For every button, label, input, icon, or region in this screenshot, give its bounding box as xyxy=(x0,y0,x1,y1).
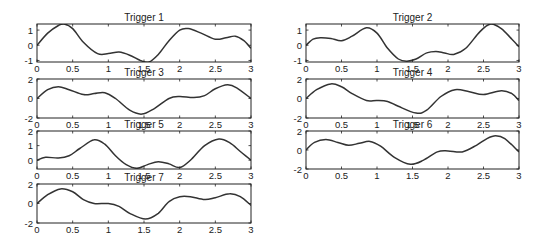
y-tick-label: 0 xyxy=(297,145,302,156)
x-tick-label: 2.5 xyxy=(477,170,490,181)
y-tick-label: 0 xyxy=(28,40,33,51)
x-tick-label: 0.5 xyxy=(66,224,79,235)
x-tick-label: 2.5 xyxy=(209,224,222,235)
y-tick-label: 1 xyxy=(297,25,302,36)
x-tick-label: 0 xyxy=(303,119,308,130)
x-tick-label: 1 xyxy=(106,224,111,235)
x-tick-label: 2.5 xyxy=(209,63,222,74)
subplot-title: Trigger 4 xyxy=(393,67,433,78)
x-tick-label: 2.5 xyxy=(477,119,490,130)
y-tick-label: 2 xyxy=(28,126,33,137)
subplot-title: Trigger 5 xyxy=(124,119,164,130)
y-tick-label: 0 xyxy=(28,93,33,104)
subplot-trigger-7: Trigger 700.511.522.53-202 xyxy=(25,172,254,235)
y-tick-label: 0 xyxy=(28,198,33,209)
x-tick-label: 0 xyxy=(303,63,308,74)
signal-line xyxy=(37,139,251,168)
signal-line xyxy=(306,136,519,165)
x-tick-label: 1.5 xyxy=(406,170,419,181)
x-tick-label: 3 xyxy=(248,63,253,74)
y-tick-label: 0 xyxy=(297,40,302,51)
axes-frame xyxy=(306,131,519,169)
x-tick-label: 3 xyxy=(248,170,253,181)
x-tick-label: 2 xyxy=(445,119,450,130)
x-tick-label: 2 xyxy=(177,170,182,181)
y-tick-label: -2 xyxy=(25,113,33,124)
x-tick-label: 1 xyxy=(106,63,111,74)
y-tick-label: -2 xyxy=(294,164,302,175)
x-tick-label: 2 xyxy=(177,224,182,235)
y-tick-label: -2 xyxy=(294,113,302,124)
figure: Trigger 100.511.522.53-101Trigger 200.51… xyxy=(0,0,535,243)
signal-line xyxy=(306,84,519,114)
x-tick-label: 0.5 xyxy=(66,119,79,130)
axes-frame xyxy=(306,24,519,62)
subplot-trigger-1: Trigger 100.511.522.53-101 xyxy=(25,12,254,74)
x-tick-label: 1 xyxy=(374,63,379,74)
y-tick-label: 2 xyxy=(297,126,302,137)
axes-frame xyxy=(37,79,251,118)
x-tick-label: 1 xyxy=(106,170,111,181)
x-tick-label: 0.5 xyxy=(335,119,348,130)
x-tick-label: 3 xyxy=(516,63,521,74)
subplot-title: Trigger 1 xyxy=(124,12,164,23)
y-tick-label: 2 xyxy=(28,74,33,85)
y-tick-label: 1 xyxy=(28,140,33,151)
x-tick-label: 0 xyxy=(34,170,39,181)
x-tick-label: 0.5 xyxy=(335,170,348,181)
signal-line xyxy=(37,189,251,219)
signal-line xyxy=(306,24,519,61)
x-tick-label: 2 xyxy=(177,119,182,130)
y-tick-label: -2 xyxy=(25,218,33,229)
axes-frame xyxy=(37,131,251,169)
subplot-title: Trigger 7 xyxy=(124,172,164,183)
x-tick-label: 1 xyxy=(374,170,379,181)
signal-line xyxy=(37,85,251,114)
y-tick-label: 0 xyxy=(297,93,302,104)
x-tick-label: 2.5 xyxy=(209,170,222,181)
subplot-title: Trigger 6 xyxy=(393,119,433,130)
x-tick-label: 0.5 xyxy=(66,170,79,181)
axes-frame xyxy=(37,24,251,62)
y-tick-label: -1 xyxy=(294,55,302,66)
y-tick-label: -1 xyxy=(25,55,33,66)
x-tick-label: 2 xyxy=(177,63,182,74)
y-tick-label: 2 xyxy=(297,74,302,85)
x-tick-label: 2.5 xyxy=(209,119,222,130)
x-tick-label: 1 xyxy=(374,119,379,130)
x-tick-label: 3 xyxy=(516,119,521,130)
x-tick-label: 1.5 xyxy=(137,224,150,235)
signal-line xyxy=(37,24,251,63)
y-tick-label: 0 xyxy=(28,155,33,166)
x-tick-label: 0 xyxy=(34,119,39,130)
x-tick-label: 0.5 xyxy=(335,63,348,74)
x-tick-label: 3 xyxy=(248,224,253,235)
x-tick-label: 0 xyxy=(34,63,39,74)
x-tick-label: 2.5 xyxy=(477,63,490,74)
y-tick-label: 1 xyxy=(28,25,33,36)
x-tick-label: 2 xyxy=(445,170,450,181)
x-tick-label: 2 xyxy=(445,63,450,74)
x-tick-label: 0.5 xyxy=(66,63,79,74)
y-tick-label: 2 xyxy=(28,179,33,190)
x-tick-label: 0 xyxy=(303,170,308,181)
x-tick-label: 1 xyxy=(106,119,111,130)
x-tick-label: 3 xyxy=(248,119,253,130)
subplot-trigger-2: Trigger 200.511.522.53-101 xyxy=(294,12,522,74)
subplot-title: Trigger 3 xyxy=(124,67,164,78)
x-tick-label: 0 xyxy=(34,224,39,235)
subplot-title: Trigger 2 xyxy=(393,12,433,23)
x-tick-label: 3 xyxy=(516,170,521,181)
